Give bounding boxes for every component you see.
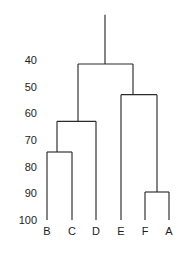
leaf-label-F: F: [142, 225, 149, 237]
y-axis-tick-60: 60: [25, 107, 37, 119]
leaf-label-A: A: [165, 225, 173, 237]
leaf-label-D: D: [92, 225, 100, 237]
dendrogram-links: [47, 15, 169, 220]
leaf-label-B: B: [43, 225, 50, 237]
y-axis-tick-90: 90: [25, 187, 37, 199]
leaf-label-E: E: [117, 225, 124, 237]
y-axis-tick-100: 100: [19, 214, 37, 226]
y-axis-tick-40: 40: [25, 54, 37, 66]
y-axis-tick-70: 70: [25, 134, 37, 146]
leaf-label-C: C: [68, 225, 76, 237]
dendrogram-chart: 405060708090100 BCDEFA: [0, 0, 182, 262]
y-axis-tick-labels: 405060708090100: [19, 54, 37, 226]
dendrogram-svg: 405060708090100 BCDEFA: [0, 0, 182, 262]
y-axis-tick-80: 80: [25, 161, 37, 173]
leaf-labels: BCDEFA: [43, 225, 173, 237]
y-axis-tick-50: 50: [25, 81, 37, 93]
